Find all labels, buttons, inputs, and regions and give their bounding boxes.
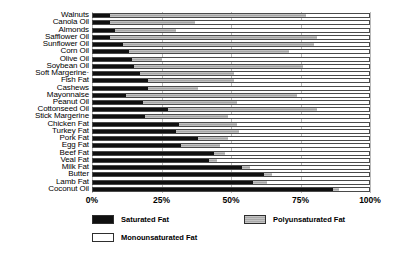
bar-segment-sat: [93, 14, 110, 17]
gridline-100pct: [370, 12, 371, 193]
table-row: [92, 100, 370, 105]
table-row: [92, 93, 370, 98]
table-row: [92, 165, 370, 170]
legend-item: Saturated Fat: [92, 215, 169, 224]
bar-segment-sat: [93, 159, 209, 162]
legend-label: Saturated Fat: [121, 215, 169, 224]
bar-segment-sat: [93, 36, 110, 39]
table-row: [92, 187, 370, 192]
bar-segment-sat: [93, 173, 264, 176]
bar-segment-sat: [93, 152, 214, 155]
bar-segment-sat: [93, 87, 148, 90]
bar-segment-mono: [220, 144, 369, 147]
table-row: [92, 151, 370, 156]
table-row: [92, 122, 370, 127]
x-tick-label: 100%: [359, 195, 381, 205]
bar-segment-poly: [179, 123, 237, 126]
bar-segment-mono: [234, 79, 369, 82]
bar-segment-sat: [93, 108, 168, 111]
table-row: [92, 49, 370, 54]
bar-segment-mono: [234, 72, 369, 75]
bar-segment-sat: [93, 21, 110, 24]
bar-segment-sat: [93, 43, 123, 46]
legend-label: Polyunsaturated Fat: [273, 215, 345, 224]
bar-segment-poly: [110, 21, 196, 24]
bar-segment-poly: [110, 36, 317, 39]
bar-segment-mono: [176, 29, 369, 32]
legend-item: Monounsaturated Fat: [92, 233, 197, 242]
bar-segment-mono: [239, 130, 369, 133]
legend-item: Polyunsaturated Fat: [244, 215, 345, 224]
bar-segment-poly: [148, 87, 198, 90]
table-row: [92, 114, 370, 119]
bar-segment-poly: [214, 152, 225, 155]
bar-segment-sat: [93, 50, 129, 53]
table-row: [92, 107, 370, 112]
table-row: [92, 13, 370, 18]
value-axis-labels: 0%25%50%75%100%: [0, 195, 398, 209]
bar-segment-poly: [242, 166, 250, 169]
bar-segment-mono: [225, 152, 369, 155]
fat-composition-chart: WalnutsCanola OilAlmondsSafflower OilSun…: [0, 0, 398, 257]
bar-segment-sat: [93, 144, 181, 147]
bar-segment-mono: [289, 50, 369, 53]
bar-segment-mono: [198, 87, 369, 90]
table-row: [92, 78, 370, 83]
bar-segment-sat: [93, 72, 140, 75]
bar-segment-poly: [126, 94, 297, 97]
bar-segment-sat: [93, 181, 253, 184]
bar-segment-mono: [267, 181, 369, 184]
table-row: [92, 136, 370, 141]
bar-segment-mono: [303, 65, 369, 68]
bar-segment-poly: [181, 144, 220, 147]
bar-segment-poly: [129, 50, 289, 53]
bar-segment-mono: [339, 188, 369, 191]
bar-segment-sat: [93, 115, 145, 118]
bar-segment-sat: [93, 79, 148, 82]
table-row: [92, 57, 370, 62]
bar-segment-mono: [272, 173, 369, 176]
bar-segment-mono: [228, 115, 369, 118]
bar-segment-poly: [110, 14, 306, 17]
bar-segment-mono: [162, 58, 369, 61]
bar-segment-poly: [145, 115, 228, 118]
bar-segment-mono: [317, 36, 369, 39]
table-row: [92, 71, 370, 76]
bar-segment-mono: [217, 159, 369, 162]
category-axis-labels: WalnutsCanola OilAlmondsSafflower OilSun…: [0, 12, 89, 193]
legend-swatch-sat: [92, 215, 114, 224]
bar-rows: [92, 12, 370, 193]
table-row: [92, 64, 370, 69]
table-row: [92, 143, 370, 148]
bar-segment-sat: [93, 65, 134, 68]
bar-segment-sat: [93, 123, 179, 126]
table-row: [92, 172, 370, 177]
bar-segment-sat: [93, 29, 115, 32]
bar-segment-poly: [209, 159, 217, 162]
bar-segment-poly: [123, 43, 313, 46]
bar-segment-mono: [306, 14, 369, 17]
table-row: [92, 129, 370, 134]
bar-segment-sat: [93, 188, 333, 191]
bar-segment-mono: [195, 21, 369, 24]
legend-label: Monounsaturated Fat: [121, 233, 197, 242]
bar-segment-sat: [93, 137, 198, 140]
bar-segment-mono: [228, 137, 369, 140]
table-row: [92, 86, 370, 91]
x-tick-label: 25%: [153, 195, 170, 205]
bar-segment-mono: [314, 43, 369, 46]
table-row: [92, 180, 370, 185]
bar-segment-mono: [237, 101, 369, 104]
table-row: [92, 158, 370, 163]
table-row: [92, 42, 370, 47]
bar-segment-poly: [168, 108, 317, 111]
legend-swatch-poly: [244, 215, 266, 224]
bar-segment-poly: [198, 137, 228, 140]
table-row: [92, 28, 370, 33]
bar-segment-poly: [176, 130, 239, 133]
legend-swatch-mono: [92, 233, 114, 242]
x-tick-label: 0%: [86, 195, 98, 205]
bar-segment-sat: [93, 166, 242, 169]
bar-segment-poly: [134, 65, 302, 68]
table-row: [92, 35, 370, 40]
